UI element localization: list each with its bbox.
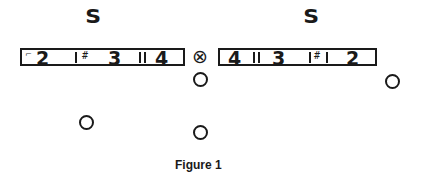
hash-mark: # bbox=[314, 50, 320, 61]
divider-line bbox=[75, 52, 77, 63]
hash-mark: # bbox=[82, 50, 88, 61]
marker-number: 4 bbox=[228, 47, 241, 69]
divider-line bbox=[309, 52, 311, 63]
right-side-label: S bbox=[303, 4, 319, 28]
left-yard-marker: ⌐ 2 # 3 4 bbox=[20, 48, 185, 66]
figure-caption: Figure 1 bbox=[175, 158, 222, 172]
marker-number: 2 bbox=[36, 47, 49, 69]
player-circle bbox=[193, 125, 208, 140]
left-side-label: S bbox=[85, 4, 101, 28]
marker-number: 3 bbox=[108, 47, 121, 69]
player-circle bbox=[193, 72, 208, 87]
marker-number: 2 bbox=[346, 47, 359, 69]
player-circle bbox=[79, 115, 94, 130]
divider-line bbox=[253, 52, 255, 63]
corner-mark: ⌐ bbox=[25, 50, 32, 59]
ball-icon: ⊗ bbox=[192, 46, 208, 66]
divider-line bbox=[144, 52, 146, 63]
divider-line bbox=[258, 52, 260, 63]
marker-number: 3 bbox=[272, 47, 285, 69]
player-circle bbox=[385, 74, 400, 89]
right-yard-marker: 4 3 # 2 bbox=[218, 48, 377, 66]
marker-number: 4 bbox=[155, 47, 168, 69]
divider-line bbox=[139, 52, 141, 63]
divider-line bbox=[326, 52, 328, 63]
